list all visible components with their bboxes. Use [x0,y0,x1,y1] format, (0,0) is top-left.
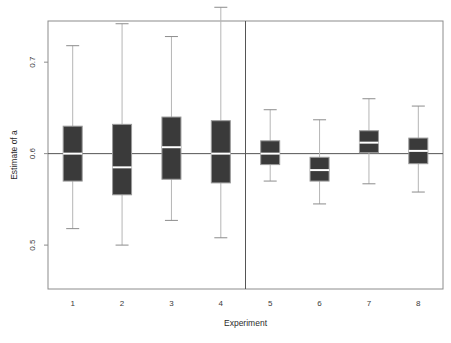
x-tick-label: 4 [219,299,224,308]
boxplot-canvas: 0.50.60.7Estimate of a12345678Experiment [0,0,451,343]
x-tick-label: 6 [317,299,322,308]
y-axis-title: Estimate of a [9,130,19,180]
boxplot-figure: 0.50.60.7Estimate of a12345678Experiment [0,0,451,343]
x-tick-label: 3 [169,299,174,308]
box-rect [113,124,132,194]
x-tick-label: 2 [120,299,125,308]
box-rect [211,121,230,183]
y-tick-label: 0.5 [28,239,37,251]
y-tick-label: 0.6 [28,148,37,160]
x-axis-title: Experiment [224,318,268,328]
x-tick-label: 5 [268,299,273,308]
x-tick-label: 8 [416,299,421,308]
x-tick-label: 7 [367,299,372,308]
y-tick-label: 0.7 [28,56,37,68]
x-tick-label: 1 [70,299,75,308]
